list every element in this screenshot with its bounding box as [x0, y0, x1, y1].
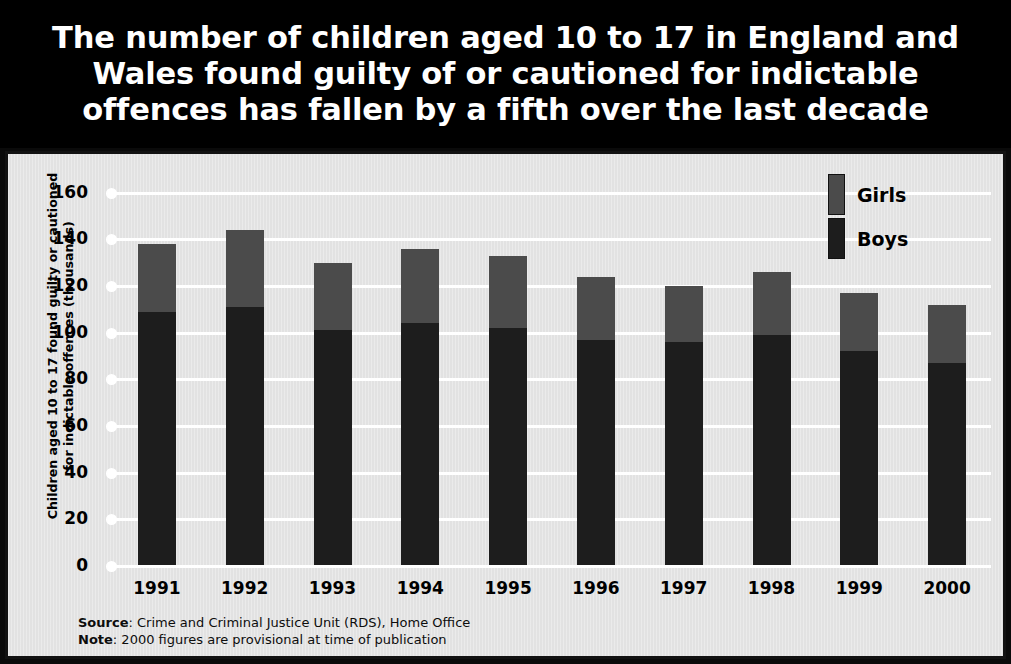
- bar-1996[interactable]: [577, 277, 615, 566]
- y-axis-tick-dot: [106, 281, 117, 292]
- y-axis-tick-dot: [106, 374, 117, 385]
- page-title: The number of children aged 10 to 17 in …: [26, 20, 986, 128]
- bar-1998[interactable]: [753, 272, 791, 566]
- y-axis-tick-label: 80: [28, 368, 88, 388]
- y-axis-tick-dot: [106, 468, 117, 479]
- y-axis-tick-dot: [106, 188, 117, 199]
- bar-segment-girls[interactable]: [314, 263, 352, 331]
- footnote-note-label: Note: [78, 632, 113, 647]
- bar-segment-boys[interactable]: [401, 323, 439, 566]
- x-axis-tick-label: 1995: [468, 578, 548, 598]
- bar-segment-boys[interactable]: [840, 351, 878, 566]
- y-axis-title: Children aged 10 to 17 found guilty or c…: [45, 146, 77, 546]
- bar-segment-boys[interactable]: [138, 312, 176, 566]
- legend-item-girls[interactable]: Girls: [828, 174, 906, 215]
- bar-segment-girls[interactable]: [577, 277, 615, 340]
- bar-1994[interactable]: [401, 249, 439, 566]
- y-axis-tick-label: 0: [28, 555, 88, 575]
- bar-2000[interactable]: [928, 305, 966, 566]
- x-axis-tick-label: 1998: [732, 578, 812, 598]
- bar-segment-girls[interactable]: [753, 272, 791, 335]
- bar-segment-girls[interactable]: [840, 293, 878, 351]
- bar-segment-boys[interactable]: [314, 330, 352, 566]
- y-axis-tick-label: 20: [28, 508, 88, 528]
- x-axis-tick-label: 1993: [293, 578, 373, 598]
- x-axis-tick-label: 1994: [380, 578, 460, 598]
- bar-segment-girls[interactable]: [226, 230, 264, 307]
- y-axis-tick-label: 100: [28, 322, 88, 342]
- bar-segment-girls[interactable]: [489, 256, 527, 328]
- chart-panel: Children aged 10 to 17 found guilty or c…: [5, 151, 1006, 659]
- bar-segment-boys[interactable]: [753, 335, 791, 566]
- footnote-source: Source: Crime and Criminal Justice Unit …: [78, 614, 470, 631]
- bar-1997[interactable]: [665, 286, 703, 566]
- y-axis-tick-label: 60: [28, 415, 88, 435]
- y-axis-tick-label: 120: [28, 275, 88, 295]
- y-axis-tick-label: 160: [28, 182, 88, 202]
- x-axis-tick-label: 1999: [819, 578, 899, 598]
- footnote-source-label: Source: [78, 615, 128, 630]
- footnote: Source: Crime and Criminal Justice Unit …: [78, 614, 470, 648]
- y-axis-tick-dot: [106, 514, 117, 525]
- x-axis-tick-label: 1991: [117, 578, 197, 598]
- bar-segment-girls[interactable]: [928, 305, 966, 363]
- bar-segment-girls[interactable]: [401, 249, 439, 324]
- y-axis-title-line1: Children aged 10 to 17 found guilty or c…: [45, 146, 61, 546]
- legend-swatch-boys: [828, 218, 845, 259]
- x-axis-line: [113, 565, 991, 568]
- footnote-note: Note: 2000 figures are provisional at ti…: [78, 631, 470, 648]
- footnote-source-text: : Crime and Criminal Justice Unit (RDS),…: [128, 615, 470, 630]
- bar-segment-girls[interactable]: [138, 244, 176, 312]
- bar-1995[interactable]: [489, 256, 527, 566]
- x-axis-tick-label: 1997: [644, 578, 724, 598]
- footnote-note-text: : 2000 figures are provisional at time o…: [113, 632, 447, 647]
- x-axis-tick-label: 2000: [907, 578, 987, 598]
- bar-segment-girls[interactable]: [665, 286, 703, 342]
- y-axis-tick-dot: [106, 328, 117, 339]
- bar-segment-boys[interactable]: [928, 363, 966, 566]
- title-banner: The number of children aged 10 to 17 in …: [0, 0, 1011, 148]
- y-axis-tick-label: 140: [28, 228, 88, 248]
- infographic-page: The number of children aged 10 to 17 in …: [0, 0, 1011, 664]
- x-axis-tick-label: 1996: [556, 578, 636, 598]
- chart-legend: GirlsBoys: [828, 174, 988, 284]
- bar-segment-boys[interactable]: [577, 340, 615, 566]
- y-axis-tick-dot: [106, 421, 117, 432]
- bar-1992[interactable]: [226, 230, 264, 566]
- bar-segment-boys[interactable]: [226, 307, 264, 566]
- y-axis-title-line2: for indictable offences (thousands): [61, 146, 77, 546]
- bar-1991[interactable]: [138, 244, 176, 566]
- y-axis-tick-dot: [106, 234, 117, 245]
- legend-label-girls: Girls: [857, 184, 906, 206]
- legend-item-boys[interactable]: Boys: [828, 218, 908, 259]
- bar-1999[interactable]: [840, 293, 878, 566]
- bar-segment-boys[interactable]: [665, 342, 703, 566]
- y-axis-tick-label: 40: [28, 462, 88, 482]
- legend-label-boys: Boys: [857, 228, 908, 250]
- bar-segment-boys[interactable]: [489, 328, 527, 566]
- bar-1993[interactable]: [314, 263, 352, 566]
- legend-swatch-girls: [828, 174, 845, 215]
- x-axis-tick-label: 1992: [205, 578, 285, 598]
